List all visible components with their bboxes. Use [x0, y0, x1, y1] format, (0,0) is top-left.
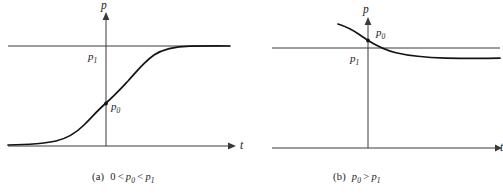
panel-a-p1-label: p1	[87, 50, 97, 65]
panel-a-p0-label: p0	[110, 100, 121, 115]
panel-a-p-axis-label: p	[100, 0, 107, 12]
panel-a-caption-expression: 0<p0<p1	[110, 171, 155, 182]
panel-a-t-axis-label: t	[240, 139, 244, 151]
panel-a-p0-point-marker	[104, 102, 108, 106]
panel-b-plot: p t p0 p1	[250, 0, 503, 165]
panel-b-caption-expression: p0>p1	[352, 171, 381, 182]
figure-container: p t p1 p0 p t p0 p1 (a)0<p0<p1 (b)	[0, 0, 503, 195]
panel-b-caption: (b)p0>p1	[333, 171, 381, 185]
panel-b-p-axis-label: p	[362, 3, 369, 16]
panel-a-p-axis-arrowhead	[103, 12, 110, 20]
panel-a-t-axis-arrowhead	[228, 143, 236, 150]
panel-b-p-axis-arrowhead	[365, 17, 372, 25]
panel-a-plot: p t p1 p0	[0, 0, 250, 165]
panel-a-solution-curve	[8, 46, 230, 145]
panel-a-caption: (a)0<p0<p1	[92, 171, 155, 185]
panel-b-p0-point-marker	[366, 39, 370, 43]
panel-a-caption-tag: (a)	[92, 171, 104, 182]
panel-b-p0-label: p0	[375, 26, 386, 41]
panel-b-p1-label: p1	[349, 52, 359, 67]
panel-b-solution-curve	[338, 24, 500, 58]
panel-b-caption-tag: (b)	[333, 171, 346, 182]
